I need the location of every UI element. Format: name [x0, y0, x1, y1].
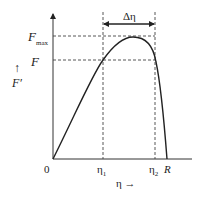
guide-lines [53, 12, 155, 159]
y-arrow-icon: ↑ [14, 62, 20, 74]
fmax-label: Fmax [28, 30, 48, 47]
eta1-label: η1 [97, 164, 106, 178]
f-label: F [31, 55, 39, 68]
delta-eta-label: Δη [123, 11, 136, 22]
y-axis-label: F′ [12, 77, 22, 89]
eta2-label: η2 [149, 164, 158, 178]
curve [53, 37, 167, 159]
origin-label: 0 [44, 164, 50, 175]
r-label: R [164, 164, 171, 175]
x-axis-label: η → [116, 178, 136, 189]
